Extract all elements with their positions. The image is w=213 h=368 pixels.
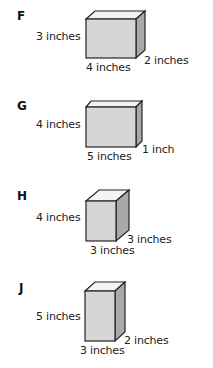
- prism-f: [86, 11, 145, 58]
- height-label-h: 4 inches: [36, 211, 80, 224]
- width-label-g: 5 inches: [87, 150, 131, 163]
- option-letter-j: J: [19, 281, 23, 295]
- depth-label-f: 2 inches: [144, 54, 188, 67]
- prism-j: [85, 282, 125, 341]
- height-label-j: 5 inches: [36, 310, 80, 323]
- height-label-g: 4 inches: [36, 118, 80, 131]
- depth-label-j: 2 inches: [124, 334, 168, 347]
- option-letter-g: G: [17, 99, 27, 113]
- depth-label-h: 3 inches: [127, 233, 171, 246]
- depth-label-g: 1 inch: [142, 143, 174, 156]
- prism-h: [86, 190, 129, 241]
- prism-g: [86, 101, 142, 147]
- width-label-j: 3 inches: [80, 344, 124, 357]
- option-letter-f: F: [17, 9, 25, 23]
- height-label-f: 3 inches: [36, 30, 80, 43]
- option-letter-h: H: [17, 189, 27, 203]
- width-label-f: 4 inches: [86, 61, 130, 74]
